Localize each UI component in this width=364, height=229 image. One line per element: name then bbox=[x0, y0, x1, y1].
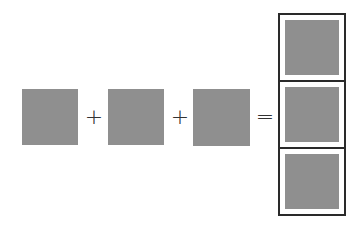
term-square-3 bbox=[193, 89, 250, 146]
result-stack bbox=[278, 13, 346, 216]
result-cell-2 bbox=[280, 82, 344, 147]
result-cell-1 bbox=[280, 15, 344, 80]
plus-operator-2: + bbox=[170, 106, 190, 128]
plus-operator-1: + bbox=[84, 106, 104, 128]
result-cell-1-fill bbox=[285, 20, 339, 75]
result-cell-3 bbox=[280, 149, 344, 214]
result-cell-3-fill bbox=[285, 154, 339, 209]
equals-operator: = bbox=[255, 106, 275, 128]
term-square-1 bbox=[22, 89, 78, 145]
term-square-2 bbox=[108, 89, 164, 145]
result-cell-2-fill bbox=[285, 87, 339, 142]
